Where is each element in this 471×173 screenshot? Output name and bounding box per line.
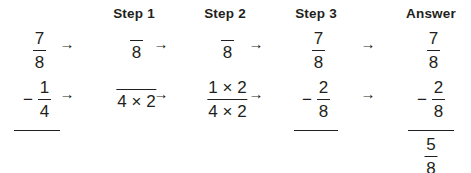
expression-row: −28	[394, 75, 468, 124]
fraction-term: 78	[422, 26, 440, 75]
result-fraction-term: 58	[425, 132, 438, 173]
fraction-numerator: 2	[318, 78, 329, 97]
column-answer: Answer78−2858	[394, 0, 468, 173]
fraction: 28	[317, 78, 330, 121]
fraction: 1 × 24 × 2	[207, 78, 247, 121]
fraction: 28	[432, 78, 445, 121]
fraction-bar	[427, 50, 440, 51]
fraction-bar	[317, 99, 330, 100]
fraction-term: 78	[28, 26, 46, 75]
fraction-numerator: 7	[428, 29, 439, 48]
fraction-numerator: 2	[433, 78, 444, 97]
result-fraction-bar	[425, 156, 438, 157]
expression-row: 78	[394, 26, 468, 75]
fraction-subtraction-worksheet: 78−14Step 184 × 2Step 281 × 24 × 2Step 3…	[0, 0, 471, 173]
fraction-term: 78	[307, 26, 325, 75]
fraction-denominator: 8	[34, 53, 45, 72]
column-header-step-3: Step 3	[274, 6, 358, 21]
fraction: 78	[427, 29, 440, 72]
subtraction-rule	[14, 130, 60, 131]
fraction-term: −28	[302, 75, 330, 124]
column-step-3: Step 378−28	[274, 0, 358, 173]
fraction-term: −28	[417, 75, 445, 124]
minus-sign: −	[417, 91, 427, 108]
fraction-numerator: 7	[313, 29, 324, 48]
fraction-denominator: 4	[39, 102, 50, 121]
result-fraction: 58	[425, 135, 438, 173]
fraction-denominator: 8	[131, 43, 142, 62]
fraction-bar	[130, 40, 143, 41]
flow-arrow-icon: →	[245, 36, 267, 51]
fraction-denominator: 8	[313, 53, 324, 72]
result-row: 58	[394, 132, 468, 173]
flow-arrow-icon: →	[245, 86, 267, 101]
column-header-step-2: Step 2	[177, 6, 273, 21]
fraction-denominator: 8	[428, 53, 439, 72]
fraction-term: 1 × 24 × 2	[202, 75, 247, 124]
subtraction-rule	[408, 130, 454, 131]
flow-arrow-icon: →	[357, 36, 379, 51]
fraction-bar	[33, 50, 46, 51]
result-denominator: 8	[425, 159, 436, 173]
fraction-numerator: 1 × 2	[207, 78, 247, 97]
fraction: 78	[312, 29, 325, 72]
fraction-denominator: 8	[222, 43, 233, 62]
minus-sign: −	[302, 91, 312, 108]
expression-row: 78	[274, 26, 358, 75]
fraction-bar	[432, 99, 445, 100]
fraction-denominator: 4 × 2	[207, 102, 247, 121]
expression-stack-step-3: 78−28	[274, 26, 358, 124]
fraction: 78	[33, 29, 46, 72]
flow-arrow-icon: →	[357, 86, 379, 101]
fraction-term: 8	[216, 26, 234, 75]
flow-arrow-icon: →	[56, 86, 78, 101]
fraction-bar	[38, 99, 51, 100]
column-header-step-1: Step 1	[86, 6, 182, 21]
column-header-answer: Answer	[394, 6, 468, 21]
flow-arrow-icon: →	[56, 36, 78, 51]
fraction: 8	[130, 38, 143, 62]
subtraction-rule	[294, 130, 338, 131]
flow-arrow-icon: →	[150, 86, 172, 101]
flow-arrow-icon: →	[150, 36, 172, 51]
fraction-denominator: 8	[318, 102, 329, 121]
fraction-numerator: 7	[34, 29, 45, 48]
fraction: 14	[38, 78, 51, 121]
fraction-term: −14	[23, 75, 51, 124]
fraction-term: 8	[125, 26, 143, 75]
fraction-denominator: 8	[433, 102, 444, 121]
fraction-bar	[207, 99, 247, 100]
result-numerator: 5	[425, 135, 436, 154]
minus-sign: −	[23, 91, 33, 108]
fraction: 8	[221, 38, 234, 62]
fraction-bar	[221, 40, 234, 41]
fraction-bar	[312, 50, 325, 51]
expression-stack-answer: 78−2858	[394, 26, 468, 173]
expression-row: −28	[274, 75, 358, 124]
fraction-numerator: 1	[39, 78, 50, 97]
